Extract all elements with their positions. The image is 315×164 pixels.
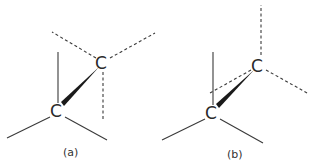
dashed-bond-a-right: [110, 33, 155, 58]
dashed-bond-b-right: [266, 70, 309, 94]
atom-c-upper-b: C: [251, 56, 263, 76]
panel-label-a: (a): [63, 146, 78, 159]
panel-label-b: (b): [227, 148, 243, 161]
bond-a-lower-right: [65, 117, 107, 140]
bond-b-lower-left: [162, 119, 205, 140]
atom-c-lower-b: C: [205, 103, 217, 123]
atom-c-upper-a: C: [95, 53, 107, 73]
bond-b-lower-right: [220, 119, 263, 143]
wedge-bond-b: [216, 70, 254, 108]
bond-a-lower-left: [7, 117, 50, 138]
dashed-bond-b-left: [210, 70, 251, 93]
molecular-diagram: C C (a) C C (b): [0, 0, 315, 164]
wedge-bond-a: [61, 67, 99, 106]
dashed-bond-a-left: [52, 32, 96, 58]
atom-c-lower-a: C: [50, 101, 62, 121]
panel-b: C C (b): [162, 5, 309, 161]
panel-a: C C (a): [7, 32, 155, 159]
